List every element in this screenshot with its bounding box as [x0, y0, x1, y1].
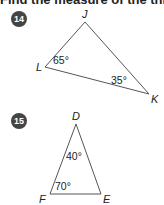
- vertex-e-label: E: [103, 193, 111, 205]
- vertex-l-label: L: [36, 61, 42, 73]
- triangle-diagrams: J L K 65° 35° D F E 40° 70°: [0, 0, 164, 205]
- vertex-d-label: D: [72, 110, 80, 122]
- angle-d-label: 40°: [66, 150, 82, 162]
- angle-l-label: 65°: [53, 54, 69, 66]
- angle-k-label: 35°: [111, 74, 127, 86]
- triangle-dfe: D F E 40° 70°: [39, 110, 111, 205]
- vertex-j-label: J: [81, 8, 88, 20]
- angle-f-label: 70°: [55, 180, 71, 192]
- vertex-f-label: F: [39, 193, 47, 205]
- vertex-k-label: K: [151, 93, 159, 105]
- triangle-jlk: J L K 65° 35°: [36, 8, 159, 105]
